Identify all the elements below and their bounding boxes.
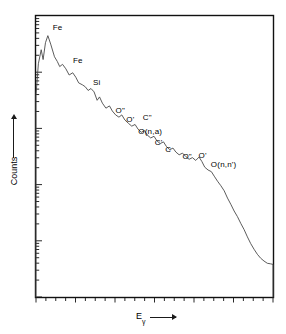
peak-label: O(n,n') bbox=[211, 160, 237, 169]
y-axis-label: Counts bbox=[9, 139, 19, 203]
plot-frame bbox=[36, 16, 274, 298]
peak-label: Fe bbox=[53, 23, 63, 32]
peak-label: O" bbox=[182, 152, 191, 161]
spectrum-plot bbox=[0, 0, 286, 334]
figure-container: FeFeSiO"O'C"O(n,a)C'CO"O'O(n,n') Counts … bbox=[0, 0, 286, 334]
peak-label: C" bbox=[143, 113, 152, 122]
peak-label: Si bbox=[93, 78, 101, 87]
x-axis-label: Eγ bbox=[136, 311, 146, 323]
x-axis-label-group: Eγ bbox=[136, 307, 176, 327]
y-axis-label-group: Counts bbox=[4, 118, 24, 238]
peak-label: O(n,a) bbox=[138, 127, 162, 136]
spectrum-curve bbox=[36, 36, 273, 297]
peak-label: O' bbox=[126, 115, 134, 124]
x-axis-arrow-icon bbox=[150, 317, 176, 318]
peak-label: C' bbox=[155, 138, 163, 147]
peak-label: Fe bbox=[73, 56, 83, 65]
axis-frame bbox=[36, 16, 274, 298]
peak-label: O' bbox=[199, 151, 207, 160]
peak-label: O" bbox=[116, 106, 125, 115]
peak-label: C bbox=[165, 145, 171, 154]
x-axis-label-subscript: γ bbox=[142, 318, 146, 325]
